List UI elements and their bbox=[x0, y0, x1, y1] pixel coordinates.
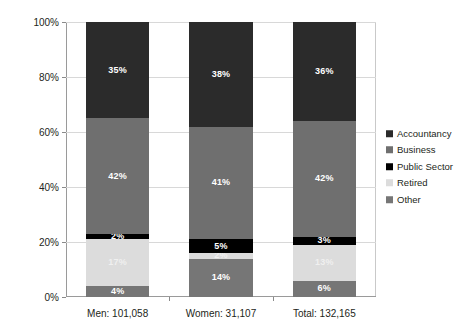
bar-segment: 35% bbox=[86, 22, 150, 118]
bar-segment-label: 42% bbox=[315, 174, 334, 183]
plot-area: 0%20%40%60%80%100% 4%17%2%42%35%Men: 101… bbox=[66, 22, 376, 297]
y-axis-tick-label: 100% bbox=[33, 17, 59, 28]
bar-group: 4%17%2%42%35%Men: 101,058 bbox=[86, 22, 150, 297]
bar-segment-label: 14% bbox=[212, 273, 231, 282]
legend-item-label: Accountancy bbox=[397, 129, 451, 139]
legend-swatch-icon bbox=[386, 196, 393, 203]
bar-group: 14%2%5%41%38%Women: 31,107 bbox=[189, 22, 253, 297]
bar-segment-label: 17% bbox=[108, 258, 127, 267]
legend-item-retired[interactable]: Retired bbox=[386, 178, 453, 188]
y-axis-tick-label: 60% bbox=[39, 127, 59, 138]
legend-item-accountancy[interactable]: Accountancy bbox=[386, 129, 453, 139]
legend-swatch-icon bbox=[386, 130, 393, 137]
legend-item-label: Business bbox=[397, 145, 436, 155]
x-axis-tick-label: Total: 132,165 bbox=[293, 308, 356, 319]
y-axis-line bbox=[66, 22, 67, 297]
bar-segment: 42% bbox=[86, 118, 150, 234]
bar-segment-label: 36% bbox=[315, 67, 334, 76]
y-axis-tick bbox=[62, 132, 66, 133]
y-axis-tick bbox=[62, 242, 66, 243]
bar-group: 6%13%3%42%36%Total: 132,165 bbox=[293, 22, 357, 297]
legend-swatch-icon bbox=[386, 147, 393, 154]
y-axis-tick-label: 40% bbox=[39, 182, 59, 193]
legend-item-business[interactable]: Business bbox=[386, 145, 453, 155]
legend-swatch-icon bbox=[386, 163, 393, 170]
bar-segment: 17% bbox=[86, 239, 150, 286]
y-axis-tick bbox=[62, 187, 66, 188]
bar-segment: 5% bbox=[189, 239, 253, 253]
bar-segment: 41% bbox=[189, 127, 253, 240]
bar-segment: 13% bbox=[293, 245, 357, 281]
x-axis-tick-label: Women: 31,107 bbox=[186, 308, 256, 319]
bar-stack: 4%17%2%42%35% bbox=[86, 22, 150, 297]
bar-segment-label: 3% bbox=[318, 236, 331, 245]
legend-item-other[interactable]: Other bbox=[386, 195, 453, 205]
y-axis-tick bbox=[62, 22, 66, 23]
x-axis-tick bbox=[169, 297, 170, 301]
bar-segment: 2% bbox=[189, 253, 253, 259]
gridline bbox=[66, 297, 376, 298]
bar-segment-label: 5% bbox=[214, 242, 227, 251]
legend-item-public-sector[interactable]: Public Sector bbox=[386, 162, 453, 172]
chart-legend: AccountancyBusinessPublic SectorRetiredO… bbox=[386, 129, 453, 205]
y-axis-tick bbox=[62, 77, 66, 78]
y-axis-tick-label: 80% bbox=[39, 72, 59, 83]
bar-segment: 4% bbox=[86, 286, 150, 297]
bar-segment: 42% bbox=[293, 121, 357, 237]
x-axis-tick bbox=[273, 297, 274, 301]
legend-swatch-icon bbox=[386, 180, 393, 187]
bar-segment: 38% bbox=[189, 22, 253, 127]
legend-item-label: Other bbox=[397, 195, 421, 205]
y-axis-tick-label: 0% bbox=[45, 292, 59, 303]
bar-segment-label: 38% bbox=[212, 70, 231, 79]
legend-item-label: Public Sector bbox=[397, 162, 453, 172]
bar-segment-label: 35% bbox=[108, 66, 127, 75]
bar-segment: 6% bbox=[293, 281, 357, 298]
bar-segment: 3% bbox=[293, 237, 357, 245]
bar-segment-label: 13% bbox=[315, 258, 334, 267]
bar-segment: 14% bbox=[189, 259, 253, 298]
bar-segment-label: 42% bbox=[108, 172, 127, 181]
bar-segment: 36% bbox=[293, 22, 357, 121]
bar-segment: 2% bbox=[86, 234, 150, 240]
legend-item-label: Retired bbox=[397, 178, 428, 188]
bar-stack: 6%13%3%42%36% bbox=[293, 22, 357, 297]
stacked-bar-chart: 0%20%40%60%80%100% 4%17%2%42%35%Men: 101… bbox=[0, 0, 474, 333]
x-axis-tick-label: Men: 101,058 bbox=[87, 308, 148, 319]
bar-segment-label: 41% bbox=[212, 178, 231, 187]
bar-segment-label: 4% bbox=[111, 287, 124, 296]
y-axis-tick-label: 20% bbox=[39, 237, 59, 248]
bar-segment-label: 6% bbox=[318, 284, 331, 293]
bar-stack: 14%2%5%41%38% bbox=[189, 22, 253, 297]
y-axis-tick bbox=[62, 297, 66, 298]
